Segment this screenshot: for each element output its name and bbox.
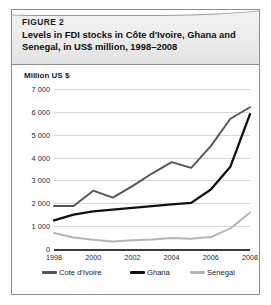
x-axis-line [54,249,250,251]
series-lines [54,89,250,249]
legend-swatch [130,271,145,274]
axis-unit-label: Million US $ [24,71,69,80]
x-axis-tick-label: 2006 [203,253,219,262]
legend-item: Cote d'Ivoire [42,268,101,277]
legend-label: Ghana [147,268,170,277]
series-line [54,107,250,206]
series-line [54,212,250,241]
figure-header: FIGURE 2 Levels in FDI stocks in Côte d'… [12,10,259,65]
legend-label: Cote d'Ivoire [59,268,101,277]
legend-swatch [190,271,205,273]
figure-label: FIGURE 2 [22,17,64,27]
chart-body: Million US $ 01 0002 0003 0004 0005 0006… [12,65,259,295]
figure-card: FIGURE 2 Levels in FDI stocks in Côte d'… [11,9,260,295]
legend-item: Ghana [130,268,170,277]
y-axis-tick-label: 6 000 [32,107,51,116]
y-axis-tick-label: 1 000 [32,222,51,231]
legend-swatch [42,271,57,274]
series-line [54,114,250,220]
y-axis-tick-label: 7 000 [32,85,51,94]
x-axis-tick-label: 2002 [124,253,140,262]
legend-label: Senegal [207,268,235,277]
figure-title: Levels in FDI stocks in Côte d'Ivoire, G… [22,29,252,54]
plot-area: 01 0002 0003 0004 0005 0006 0007 000 [54,89,250,249]
x-axis-tick-label: 2004 [164,253,180,262]
x-axis-tick-label: 2008 [242,253,258,262]
x-axis-tick-label: 2000 [85,253,101,262]
x-axis-tick-label: 1998 [46,253,62,262]
y-axis-tick-label: 4 000 [32,153,51,162]
legend-item: Senegal [190,268,235,277]
y-axis-tick-label: 3 000 [32,176,51,185]
y-axis-tick-label: 5 000 [32,130,51,139]
y-axis-tick-label: 2 000 [32,199,51,208]
chart-legend: Cote d'IvoireGhanaSenegal [12,268,259,284]
